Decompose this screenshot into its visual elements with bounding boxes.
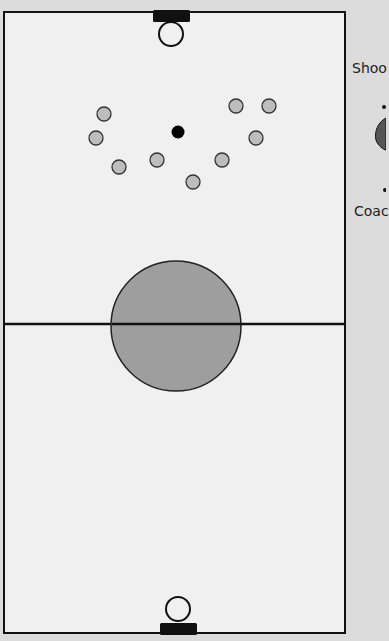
- center-circle: [111, 261, 241, 391]
- player-marker-icon: [249, 131, 263, 145]
- ball-icon: [172, 126, 185, 139]
- player-marker-icon: [186, 175, 200, 189]
- player-marker-icon: [229, 99, 243, 113]
- legend-coach-label: Coac: [354, 203, 389, 219]
- player-marker-icon: [97, 107, 111, 121]
- player-marker-icon: [262, 99, 276, 113]
- top-goal-crease: [159, 22, 183, 46]
- player-marker-icon: [112, 160, 126, 174]
- player-marker-icon: [215, 153, 229, 167]
- players-group: [89, 99, 276, 189]
- bottom-goal-crease: [166, 597, 190, 621]
- player-marker-icon: [89, 131, 103, 145]
- player-figure-icon: [375, 105, 386, 192]
- legend-shooter-label: Shoo: [352, 60, 387, 76]
- bottom-goal-icon: [160, 623, 197, 635]
- player-marker-icon: [150, 153, 164, 167]
- top-goal-icon: [153, 10, 190, 22]
